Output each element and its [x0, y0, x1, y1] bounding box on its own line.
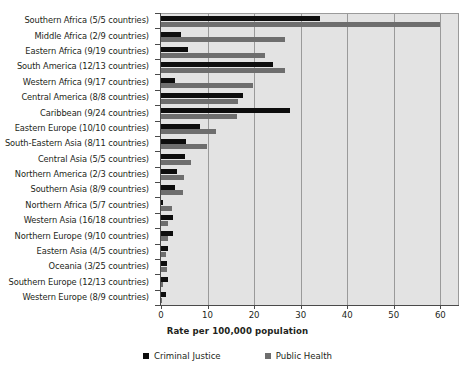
plot-wrapper: Southern Africa (5/5 countries)Middle Af… [0, 0, 475, 300]
bar-criminal-justice [161, 124, 200, 129]
chart-legend: Criminal Justice Public Health [0, 351, 475, 361]
category-label: Eastern Europe (10/10 countries) [0, 121, 155, 136]
bar-row [161, 29, 458, 44]
bar-public-health [161, 190, 183, 195]
category-label: Caribbean (9/24 countries) [0, 105, 155, 120]
bar-criminal-justice [161, 185, 175, 190]
y-tick-mark [155, 151, 160, 152]
bar-criminal-justice [161, 200, 163, 205]
bar-criminal-justice [161, 139, 186, 144]
bar-row [161, 167, 458, 182]
plot-area [161, 13, 459, 305]
legend-item-criminal-justice: Criminal Justice [143, 351, 221, 361]
y-tick-mark [155, 259, 160, 260]
bar-row [161, 106, 458, 121]
bar-public-health [161, 83, 253, 88]
bar-public-health [161, 22, 440, 27]
bar-criminal-justice [161, 169, 177, 174]
category-label: Northern Africa (5/7 countries) [0, 198, 155, 213]
y-tick-mark [155, 44, 160, 45]
x-tick-label: 30 [295, 310, 306, 320]
bar-row [161, 259, 458, 274]
x-axis-line [160, 305, 459, 306]
bar-criminal-justice [161, 261, 167, 266]
bar-public-health [161, 221, 168, 226]
bar-row [161, 290, 458, 305]
y-tick-mark [155, 182, 160, 183]
bar-public-health [161, 160, 191, 165]
category-label: Southern Asia (8/9 countries) [0, 182, 155, 197]
category-label: Northern America (2/3 countries) [0, 167, 155, 182]
category-label: Western Asia (16/18 countries) [0, 213, 155, 228]
bar-public-health [161, 236, 168, 241]
bar-public-health [161, 53, 265, 58]
category-label: South-Eastern Asia (8/11 countries) [0, 136, 155, 151]
x-tick-mark [394, 305, 395, 309]
bar-criminal-justice [161, 292, 166, 297]
y-tick-mark [155, 13, 160, 14]
legend-label: Criminal Justice [154, 351, 221, 361]
bar-public-health [161, 129, 216, 134]
bar-criminal-justice [161, 108, 290, 113]
bar-row [161, 137, 458, 152]
y-tick-mark [155, 228, 160, 229]
y-tick-mark [155, 167, 160, 168]
y-tick-mark [155, 59, 160, 60]
y-tick-mark [155, 105, 160, 106]
bar-public-health [161, 68, 285, 73]
bar-row [161, 14, 458, 29]
category-label: Southern Africa (5/5 countries) [0, 13, 155, 28]
y-tick-mark [155, 90, 160, 91]
bar-criminal-justice [161, 16, 320, 21]
bar-public-health [161, 206, 172, 211]
x-tick-label: 60 [435, 310, 446, 320]
bar-public-health [161, 37, 285, 42]
x-tick-mark [301, 305, 302, 309]
bar-row [161, 182, 458, 197]
y-tick-mark [155, 244, 160, 245]
bar-chart: Southern Africa (5/5 countries)Middle Af… [0, 0, 475, 379]
bar-public-health [161, 114, 237, 119]
bar-row [161, 274, 458, 289]
bar-public-health [161, 298, 162, 303]
x-tick-mark [347, 305, 348, 309]
bar-criminal-justice [161, 231, 173, 236]
bar-criminal-justice [161, 93, 243, 98]
category-axis-labels: Southern Africa (5/5 countries)Middle Af… [0, 13, 155, 305]
y-tick-mark [155, 305, 160, 306]
bar-criminal-justice [161, 62, 273, 67]
x-tick-label: 10 [202, 310, 213, 320]
y-tick-mark [155, 290, 160, 291]
category-label: Southern Europe (12/13 countries) [0, 274, 155, 289]
bar-row [161, 244, 458, 259]
bar-public-health [161, 252, 166, 257]
x-tick-label: 0 [158, 310, 163, 320]
bar-criminal-justice [161, 47, 188, 52]
category-label: Eastern Africa (9/19 countries) [0, 44, 155, 59]
bar-criminal-justice [161, 78, 175, 83]
y-tick-mark [155, 121, 160, 122]
bar-public-health [161, 267, 167, 272]
y-axis-line [160, 13, 161, 306]
bar-row [161, 121, 458, 136]
legend-item-public-health: Public Health [265, 351, 332, 361]
bar-row [161, 75, 458, 90]
bar-criminal-justice [161, 154, 185, 159]
bar-public-health [161, 99, 238, 104]
category-label: Eastern Asia (4/5 countries) [0, 244, 155, 259]
legend-swatch-icon [265, 353, 271, 359]
x-tick-mark [440, 305, 441, 309]
bar-row [161, 152, 458, 167]
category-label: Western Europe (8/9 countries) [0, 290, 155, 305]
bar-row [161, 213, 458, 228]
bar-row [161, 198, 458, 213]
x-tick-label: 50 [388, 310, 399, 320]
x-tick-label: 20 [249, 310, 260, 320]
category-label: South America (12/13 countries) [0, 59, 155, 74]
bar-row [161, 60, 458, 75]
legend-label: Public Health [276, 351, 332, 361]
x-tick-label: 40 [342, 310, 353, 320]
y-tick-mark [155, 274, 160, 275]
category-label: Central America (8/8 countries) [0, 90, 155, 105]
x-tick-mark [161, 305, 162, 309]
